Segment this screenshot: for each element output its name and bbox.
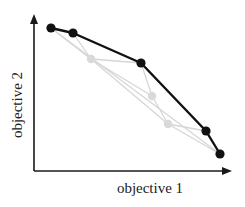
x-axis-arrow-icon	[222, 167, 232, 175]
dominated-point	[164, 120, 172, 128]
dominated-point	[87, 55, 95, 63]
axes	[30, 14, 232, 175]
y-axis-arrow-icon	[30, 14, 38, 24]
pareto-point	[215, 149, 224, 158]
pareto-point	[68, 28, 77, 37]
x-axis-label: objective 1	[117, 180, 183, 196]
pareto-point	[136, 58, 145, 67]
pareto-point	[201, 126, 210, 135]
dominated-edge	[51, 28, 220, 154]
pareto-point	[46, 23, 55, 32]
dominated-point	[148, 92, 156, 100]
dominated-edge	[91, 59, 168, 124]
dominated-solution-edges	[51, 28, 220, 154]
y-axis-label: objective 2	[9, 72, 25, 138]
pareto-front-diagram: objective 1 objective 2	[0, 0, 245, 207]
